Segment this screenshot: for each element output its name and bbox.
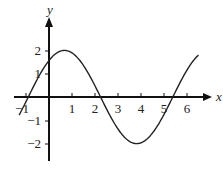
x-tick-label: 4 — [138, 101, 145, 116]
y-axis-label: y — [45, 2, 53, 17]
x-tick-label: 6 — [184, 101, 191, 116]
sinusoid-graph: −1 1 2 3 4 5 6 2 1 −1 −2 x y — [0, 0, 223, 172]
y-tick-label: −2 — [27, 136, 41, 151]
y-axis-arrow-icon — [45, 17, 53, 27]
x-axis-label: x — [215, 89, 222, 104]
x-tick-label: 3 — [115, 101, 122, 116]
y-tick-label: −1 — [27, 113, 41, 128]
x-tick-label: 1 — [69, 101, 76, 116]
y-tick-label: 2 — [35, 43, 42, 58]
x-axis-arrow-icon — [203, 93, 212, 101]
x-tick-label: 2 — [92, 101, 99, 116]
